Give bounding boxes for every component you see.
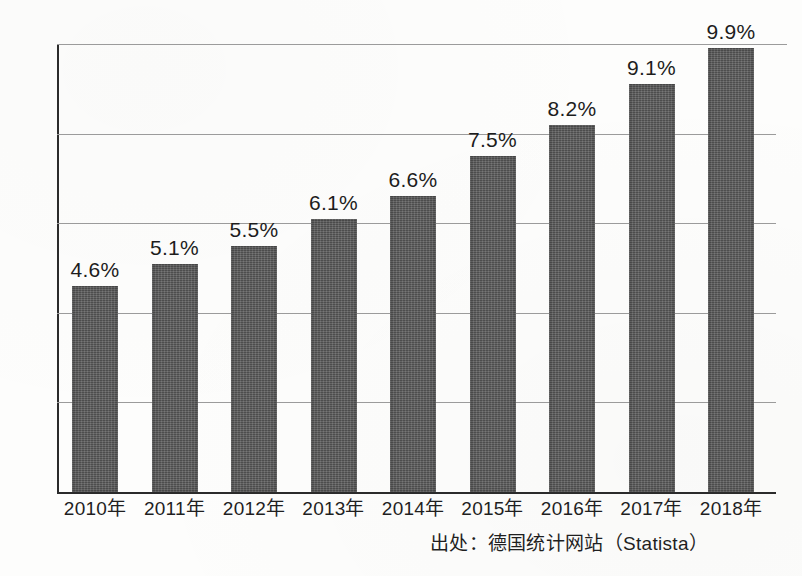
x-axis-tick-label: 2013年 (297, 498, 371, 520)
bar[interactable] (311, 219, 357, 492)
bar-value-label: 8.2% (547, 98, 596, 119)
bar-value-label: 5.5% (229, 219, 278, 240)
bar[interactable] (390, 196, 436, 492)
bar-group[interactable]: 5.1% (152, 44, 198, 492)
bar-value-label: 9.9% (706, 21, 755, 42)
bar-value-label: 6.1% (309, 192, 358, 213)
bar-value-label: 7.5% (468, 129, 517, 150)
x-axis-line (57, 492, 776, 494)
bar[interactable] (708, 48, 754, 492)
y-axis-line (57, 45, 59, 494)
bar-group[interactable]: 9.1% (629, 44, 675, 492)
plot-area: 4.6%5.1%5.5%6.1%6.6%7.5%8.2%9.1%9.9% (57, 45, 787, 493)
x-axis-tick-label: 2012年 (217, 498, 291, 520)
x-axis-tick-label: 2018年 (694, 498, 768, 520)
x-axis-tick-label: 2016年 (535, 498, 609, 520)
bar-value-label: 5.1% (150, 237, 199, 258)
x-axis-tick-label: 2017年 (615, 498, 689, 520)
bar-group[interactable]: 6.6% (390, 44, 436, 492)
bar-group[interactable]: 4.6% (72, 44, 118, 492)
bar[interactable] (231, 246, 277, 492)
source-note: 出处：德国统计网站（Statista） (430, 533, 708, 555)
bar-group[interactable]: 6.1% (311, 44, 357, 492)
chart-page: 0246810 4.6%5.1%5.5%6.1%6.6%7.5%8.2%9.1%… (0, 0, 802, 576)
bar-group[interactable]: 9.9% (708, 44, 754, 492)
bar-group[interactable]: 5.5% (231, 44, 277, 492)
x-axis-tick-label: 2014年 (376, 498, 450, 520)
x-axis-tick-label: 2010年 (58, 498, 132, 520)
bar[interactable] (152, 264, 198, 492)
x-axis-tick-labels: 2010年2011年2012年2013年2014年2015年2016年2017年… (57, 498, 787, 524)
x-axis-tick-label: 2015年 (456, 498, 530, 520)
bar-value-label: 9.1% (627, 57, 676, 78)
bar[interactable] (72, 286, 118, 492)
bar[interactable] (629, 84, 675, 492)
x-axis-tick-label: 2011年 (138, 498, 212, 520)
bar-group[interactable]: 7.5% (470, 44, 516, 492)
bar-value-label: 4.6% (70, 259, 119, 280)
bar-value-label: 6.6% (388, 169, 437, 190)
bar[interactable] (549, 125, 595, 492)
bar[interactable] (470, 156, 516, 492)
bar-group[interactable]: 8.2% (549, 44, 595, 492)
